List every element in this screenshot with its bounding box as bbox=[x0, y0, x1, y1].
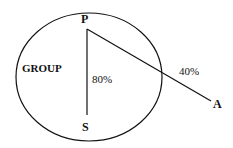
point-a-label: A bbox=[213, 98, 222, 110]
group-circle bbox=[16, 13, 162, 141]
point-p-label: P bbox=[81, 13, 88, 25]
group-label: GROUP bbox=[22, 63, 62, 74]
edge-p-s-label: 80% bbox=[92, 74, 112, 85]
edge-p-a-label: 40% bbox=[179, 66, 199, 77]
point-s-label: S bbox=[82, 121, 89, 133]
